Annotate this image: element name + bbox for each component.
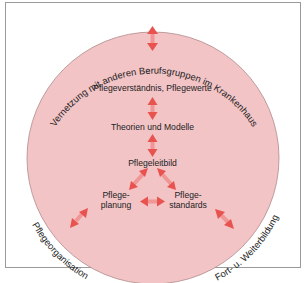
nursing-concept-diagram: Vernetzung mit anderen Berufsgruppen im … bbox=[0, 0, 306, 283]
node-mission: Pflegeleitbild bbox=[128, 158, 177, 168]
node-standards-line1: Pflege- bbox=[174, 190, 201, 200]
node-planning-line1: Pflege- bbox=[102, 190, 129, 200]
node-planning-line2: planung bbox=[101, 200, 132, 210]
node-standards-line2: standards bbox=[169, 200, 207, 210]
node-values: Pflegeverständnis, Pflegewerte bbox=[93, 83, 212, 93]
node-theories: Theorien und Modelle bbox=[111, 122, 194, 132]
